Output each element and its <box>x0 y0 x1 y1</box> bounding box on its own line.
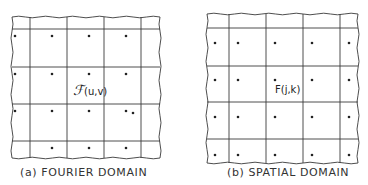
sample-point <box>88 73 91 76</box>
sample-point <box>125 110 128 113</box>
sample-point <box>348 154 351 157</box>
sample-point <box>14 110 17 113</box>
script-f-symbol: ℱ <box>73 82 84 98</box>
fourier-sample-label: ℱ(u,v) <box>73 82 107 98</box>
sample-point <box>51 73 54 76</box>
sample-point <box>51 110 54 113</box>
sample-point <box>237 42 240 45</box>
sample-point <box>14 73 17 76</box>
sample-point <box>214 42 217 45</box>
fourier-domain-caption: (a) FOURIER DOMAIN <box>20 166 147 179</box>
torn-edge-left <box>11 17 13 158</box>
torn-edge-right <box>159 17 161 158</box>
torn-edge-right <box>357 14 359 163</box>
fourier-args: (u,v) <box>84 86 107 97</box>
sample-point <box>51 147 54 150</box>
sample-point <box>237 79 240 82</box>
sampling-grid-figure <box>0 0 368 185</box>
torn-edge-bottom <box>12 157 160 159</box>
sample-point <box>274 154 277 157</box>
sample-point <box>88 35 91 38</box>
sample-point <box>237 154 240 157</box>
sample-point <box>311 42 314 45</box>
sample-point <box>311 79 314 82</box>
sample-point <box>348 116 351 119</box>
sample-point <box>88 147 91 150</box>
torn-edge-top <box>12 16 160 18</box>
sample-point <box>348 42 351 45</box>
sample-point <box>214 154 217 157</box>
sample-point <box>274 79 277 82</box>
sample-point <box>125 73 128 76</box>
sample-point <box>311 154 314 157</box>
spatial-domain-caption: (b) SPATIAL DOMAIN <box>227 166 349 179</box>
sample-point <box>132 112 135 115</box>
sample-point <box>274 116 277 119</box>
sample-point <box>125 35 128 38</box>
sample-point <box>237 116 240 119</box>
sample-point <box>51 35 54 38</box>
sample-point <box>311 116 314 119</box>
sample-point <box>88 110 91 113</box>
spatial-sample-label: F(j,k) <box>275 84 300 95</box>
torn-edge-top <box>207 13 358 15</box>
sample-point <box>14 35 17 38</box>
sample-point <box>348 79 351 82</box>
sample-point <box>125 147 128 150</box>
torn-edge-bottom <box>207 162 358 164</box>
torn-edge-left <box>206 14 208 163</box>
sample-point <box>214 79 217 82</box>
sample-point <box>274 42 277 45</box>
sample-point <box>214 116 217 119</box>
